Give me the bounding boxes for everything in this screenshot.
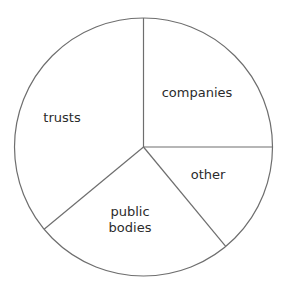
label-public-bodies: public bodies xyxy=(109,204,152,236)
pie-chart-svg xyxy=(0,0,285,292)
label-trusts: trusts xyxy=(43,110,80,126)
label-other: other xyxy=(191,167,226,183)
label-public-line1: public xyxy=(109,204,152,220)
label-public-line2: bodies xyxy=(109,220,152,236)
label-companies: companies xyxy=(162,85,233,101)
